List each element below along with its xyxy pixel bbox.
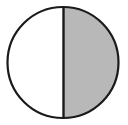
figure-svg bbox=[0, 0, 128, 125]
circle-half-shaded-figure: A circle divided by a vertical diameter … bbox=[0, 0, 128, 125]
